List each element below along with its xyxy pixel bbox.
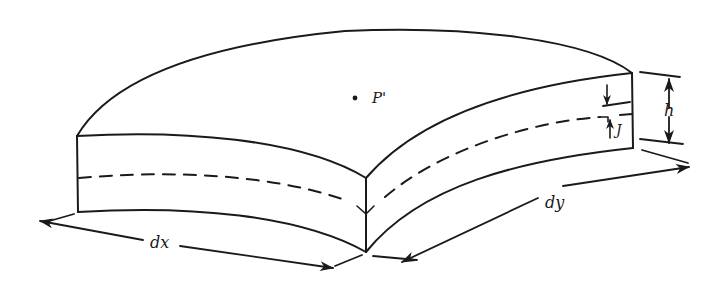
label-dx: dx (150, 233, 169, 252)
bottom-front-right-edge (366, 148, 633, 252)
dy-arrow-left (402, 198, 538, 262)
middle-surface-left-dashed (79, 174, 345, 200)
label-p-prime: P' (371, 89, 386, 107)
top-front-right-edge (366, 73, 632, 178)
top-back-edge (77, 30, 632, 136)
point-p-prime-dot (353, 96, 358, 101)
dx-extension-right (335, 255, 362, 266)
label-j: J (613, 122, 623, 138)
label-dy: dy (545, 193, 565, 212)
bottom-front-left-edge (78, 210, 366, 252)
h-extension-bottom (640, 139, 683, 144)
h-extension-top (640, 72, 680, 77)
top-front-left-edge (77, 134, 366, 178)
plate-element-diagram: P' h J dx dy (0, 0, 720, 296)
offset-lower-bracket (600, 117, 608, 122)
label-h: h (664, 101, 674, 120)
right-vertical-edge (632, 73, 633, 148)
left-vertical-edge (77, 136, 78, 212)
dx-arrow-left (40, 221, 143, 240)
dy-arrow-right (563, 167, 689, 186)
dy-extension-right (642, 150, 688, 163)
dx-arrow-right (180, 246, 333, 268)
middle-surface-right-tick (620, 114, 632, 115)
dx-extension-left (46, 214, 74, 222)
